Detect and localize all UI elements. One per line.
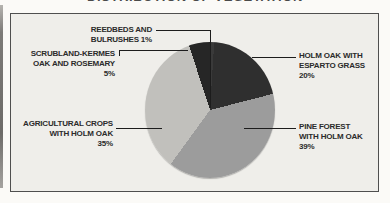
label-scrubland-line2: OAK AND ROSEMARY [5,59,115,69]
label-agricultural-line3: 35% [5,139,113,149]
label-pine-line1: PINE FOREST [299,122,363,132]
leader-line-scrubland-nub [119,50,120,56]
label-scrubland-line1: SCRUBLAND-KERMES [5,49,115,59]
label-holm-oak-line2: ESPARTO GRASS [299,61,365,71]
label-reedbeds: REEDBEDS AND BULRUSHES 1% [40,25,152,45]
label-holm-oak-line1: HOLM OAK WITH [299,51,365,61]
label-reedbeds-line2: BULRUSHES 1% [40,35,152,45]
label-agricultural-line2: WITH HOLM OAK [5,129,113,139]
leader-line-reedbeds-horizontal [156,30,211,31]
page-edge-scan-artifact [0,5,3,188]
leader-line-holm-oak [252,57,296,58]
label-agricultural: AGRICULTURAL CROPS WITH HOLM OAK 35% [5,119,113,149]
leader-line-reedbeds-vertical [210,30,211,108]
label-pine-forest: PINE FOREST WITH HOLM OAK 39% [299,122,363,152]
label-reedbeds-line1: REEDBEDS AND [40,25,152,35]
leader-line-scrubland [119,50,188,51]
label-agricultural-line1: AGRICULTURAL CROPS [5,119,113,129]
label-pine-line2: WITH HOLM OAK [299,132,363,142]
label-scrubland-line3: 5% [5,69,115,79]
chart-title: DISTRIBUTION OF VEGETATION [0,0,390,3]
label-holm-oak: HOLM OAK WITH ESPARTO GRASS 20% [299,51,365,81]
leader-line-pine-forest [244,128,296,129]
leader-line-agricultural [116,128,162,129]
scanned-pie-chart-figure: DISTRIBUTION OF VEGETATION REEDBEDS AND … [0,0,390,203]
label-pine-line3: 39% [299,142,363,152]
label-scrubland: SCRUBLAND-KERMES OAK AND ROSEMARY 5% [5,49,115,79]
label-holm-oak-line3: 20% [299,71,365,81]
